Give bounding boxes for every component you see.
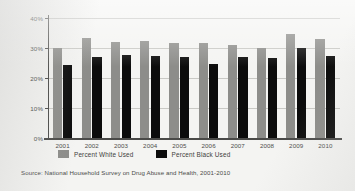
bar-percent-white-used [53, 48, 62, 138]
bar-percent-white-used [286, 34, 295, 138]
bar-percent-black-used [326, 56, 335, 139]
bar-percent-white-used [111, 42, 120, 138]
bar-percent-white-used [315, 39, 324, 138]
x-axis-tick-label: 2004 [143, 142, 157, 149]
bar-percent-white-used [257, 48, 266, 138]
bar-group: 2008 [252, 18, 281, 138]
x-axis-tick-label: 2009 [289, 142, 303, 149]
x-axis-line [44, 138, 342, 140]
legend-swatch-black-used [156, 150, 167, 158]
legend-label: Percent Black Used [172, 151, 231, 158]
x-axis-tick-label: 2010 [318, 142, 332, 149]
x-axis-tick-label: 2002 [85, 142, 99, 149]
x-axis-tick-label: 2006 [202, 142, 216, 149]
bar-percent-black-used [122, 55, 131, 138]
chart-legend: Percent White UsedPercent Black Used [58, 150, 230, 158]
y-axis-tick-label: 30% [30, 45, 43, 52]
y-axis-tick-label: 0% [34, 135, 43, 142]
bar-percent-black-used [238, 57, 247, 138]
bar-group: 2003 [106, 18, 135, 138]
bar-group: 2010 [311, 18, 340, 138]
bar-percent-white-used [169, 43, 178, 138]
plot-area: 0%10%20%30%40% 2001200220032004200520062… [48, 18, 340, 138]
bar-group: 2005 [165, 18, 194, 138]
bar-group: 2002 [77, 18, 106, 138]
y-axis-tick-mark [45, 138, 49, 139]
bar-group: 2001 [48, 18, 77, 138]
bar-group: 2006 [194, 18, 223, 138]
bar-percent-white-used [228, 45, 237, 138]
bar-group: 2009 [282, 18, 311, 138]
bar-group: 2007 [223, 18, 252, 138]
bar-percent-white-used [82, 38, 91, 139]
x-axis-tick-label: 2003 [114, 142, 128, 149]
y-axis-tick-label: 40% [30, 15, 43, 22]
legend-item: Percent White Used [58, 150, 134, 158]
x-axis-tick-label: 2007 [231, 142, 245, 149]
bar-percent-white-used [140, 41, 149, 138]
bar-percent-white-used [199, 43, 208, 138]
x-axis-tick-label: 2005 [172, 142, 186, 149]
legend-item: Percent Black Used [156, 150, 231, 158]
bar-percent-black-used [151, 56, 160, 139]
x-axis-tick-label: 2008 [260, 142, 274, 149]
bar-percent-black-used [268, 58, 277, 138]
bar-percent-black-used [92, 57, 101, 138]
bar-percent-black-used [63, 65, 72, 138]
legend-swatch-white-used [58, 150, 69, 158]
bar-group: 2004 [136, 18, 165, 138]
bar-percent-black-used [297, 48, 306, 138]
bar-percent-black-used [209, 64, 218, 138]
y-axis-tick-label: 20% [30, 75, 43, 82]
source-note: Source: National Household Survey on Dru… [21, 169, 230, 176]
y-axis-tick-label: 10% [30, 105, 43, 112]
legend-label: Percent White Used [74, 151, 134, 158]
x-axis-tick-label: 2001 [56, 142, 70, 149]
chart-figure: 0%10%20%30%40% 2001200220032004200520062… [0, 0, 355, 191]
bar-percent-black-used [180, 57, 189, 138]
